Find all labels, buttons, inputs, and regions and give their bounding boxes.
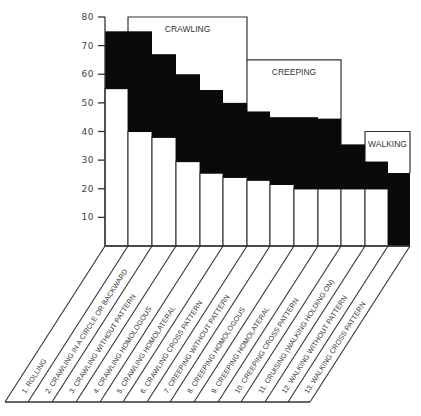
- y-tick-label: 30: [82, 155, 94, 165]
- bar-base: [341, 189, 365, 246]
- bar-1: [105, 31, 128, 246]
- stage-label-creeping: CREEPING: [272, 67, 316, 77]
- bar-base: [200, 173, 223, 246]
- stage-label-walking: WALKING: [368, 139, 407, 149]
- bar-base: [176, 162, 200, 246]
- y-tick-label: 40: [82, 127, 94, 137]
- y-tick-label: 20: [82, 184, 94, 194]
- bar-range: [247, 111, 270, 180]
- bar-3: [152, 54, 176, 246]
- bar-base: [365, 189, 388, 246]
- bar-6: [223, 103, 247, 246]
- y-tick-label: 70: [82, 41, 94, 51]
- developmental-stages-chart: CRAWLINGCREEPINGWALKING 1020304050607080…: [0, 0, 421, 416]
- bar-range: [152, 54, 176, 138]
- bar-range: [318, 119, 341, 190]
- bar-base: [128, 132, 152, 247]
- y-tick-label: 60: [82, 69, 94, 79]
- bar-13: [388, 173, 410, 246]
- bar-base: [294, 189, 318, 246]
- bar-base: [105, 89, 128, 246]
- bars: [105, 31, 410, 246]
- bar-base: [270, 184, 294, 246]
- bar-5: [200, 90, 223, 246]
- bar-range: [200, 90, 223, 174]
- y-tick-label: 10: [82, 212, 94, 222]
- bar-base: [247, 180, 270, 246]
- y-tick-label: 80: [82, 12, 94, 22]
- bar-range: [176, 74, 200, 162]
- stage-label-crawling: CRAWLING: [165, 24, 211, 34]
- bar-range: [105, 31, 128, 89]
- bar-range: [270, 117, 294, 185]
- bar-9: [294, 117, 318, 246]
- bar-base: [318, 189, 341, 246]
- bar-8: [270, 117, 294, 246]
- bar-7: [247, 111, 270, 246]
- bar-range: [388, 173, 410, 246]
- x-axis-labels: 1. ROLLING2. CRAWLING IN A CIRCLE OR BAC…: [5, 246, 410, 402]
- y-tick-label: 50: [82, 98, 94, 108]
- bar-10: [318, 119, 341, 246]
- bar-range: [294, 117, 318, 189]
- bar-12: [365, 162, 388, 246]
- bar-range: [223, 103, 247, 178]
- bar-base: [152, 137, 176, 246]
- bar-2: [128, 31, 152, 246]
- bar-range: [365, 162, 388, 190]
- bar-range: [341, 144, 365, 189]
- bar-11: [341, 144, 365, 246]
- bar-range: [128, 31, 152, 132]
- bar-base: [223, 177, 247, 246]
- bar-4: [176, 74, 200, 246]
